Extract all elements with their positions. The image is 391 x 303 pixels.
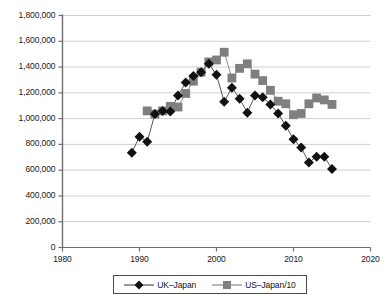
y-axis-tick-label: 1,600,000: [0, 35, 56, 45]
x-axis-tick-label: 2000: [197, 254, 237, 264]
data-point: [281, 121, 291, 131]
data-point: [174, 103, 183, 112]
data-point: [281, 99, 290, 108]
y-axis-tick-label: 600,000: [0, 164, 56, 174]
data-point: [242, 108, 252, 118]
data-point: [235, 64, 244, 73]
data-point: [305, 99, 314, 108]
chart-container: 0200,000400,000600,000800,0001,000,0001,…: [0, 0, 391, 303]
chart-legend: UK–Japan US–Japan/10: [113, 275, 307, 294]
y-axis-tick-label: 400,000: [0, 190, 56, 200]
data-point: [328, 100, 337, 109]
data-point: [127, 148, 137, 158]
legend-item-uk-japan: UK–Japan: [124, 279, 196, 291]
y-axis-tick-label: 1,400,000: [0, 61, 56, 71]
data-point: [327, 164, 337, 174]
data-point: [212, 70, 222, 80]
y-axis-tick-label: 1,000,000: [0, 113, 56, 123]
y-axis-tick-label: 800,000: [0, 138, 56, 148]
y-axis-tick-label: 1,200,000: [0, 87, 56, 97]
data-point: [228, 74, 237, 83]
x-axis-tick-label: 1990: [120, 254, 160, 264]
data-point: [220, 48, 229, 57]
legend-label-us-japan: US–Japan/10: [245, 280, 295, 290]
y-axis-tick-label: 1,800,000: [0, 10, 56, 20]
data-point: [212, 56, 221, 65]
data-point: [142, 137, 152, 147]
data-point: [320, 96, 329, 105]
data-point: [289, 110, 298, 119]
data-point: [227, 83, 237, 93]
data-point: [319, 152, 329, 162]
legend-item-us-japan: US–Japan/10: [212, 279, 295, 291]
x-axis-tick-label: 1980: [43, 254, 83, 264]
data-point: [250, 90, 260, 100]
data-point: [266, 86, 275, 95]
data-point: [181, 89, 190, 98]
data-point: [235, 94, 245, 104]
square-marker-icon: [212, 279, 242, 291]
diamond-marker-icon: [124, 279, 154, 291]
y-axis-tick-label: 0: [0, 242, 56, 252]
data-point: [135, 132, 145, 142]
data-point: [258, 76, 267, 85]
legend-label-uk-japan: UK–Japan: [157, 280, 196, 290]
x-axis-tick-label: 2020: [351, 254, 391, 264]
data-point: [251, 70, 260, 79]
data-point: [304, 157, 314, 167]
data-point: [312, 94, 321, 103]
data-point: [219, 97, 229, 107]
x-axis-tick-label: 2010: [274, 254, 314, 264]
data-point: [243, 59, 252, 68]
y-axis-tick-label: 200,000: [0, 216, 56, 226]
data-point: [297, 109, 306, 118]
